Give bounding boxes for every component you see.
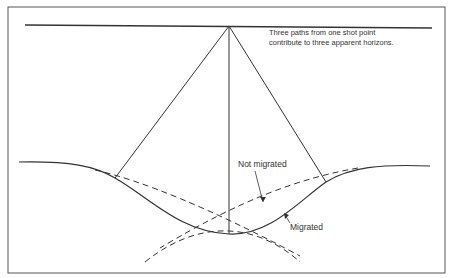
not-migrated-label: Not migrated xyxy=(238,159,287,169)
not-migrated-bottom-segment xyxy=(145,231,300,262)
figure-frame: Three paths from one shot point contribu… xyxy=(0,0,450,278)
not-migrated-arrowhead xyxy=(260,197,266,202)
figure-caption: Three paths from one shot point contribu… xyxy=(269,28,399,48)
ray-path-left xyxy=(115,26,229,178)
migrated-label: Migrated xyxy=(290,222,323,232)
not-migrated-left-segment xyxy=(95,170,300,256)
migrated-horizon xyxy=(19,162,430,234)
